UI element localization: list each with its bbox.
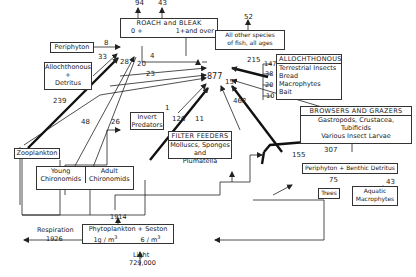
- phyto-conc-2: 6 / m3: [128, 233, 173, 244]
- alloch-value-bait: 10: [266, 92, 274, 100]
- flow-label-26: 26: [111, 118, 120, 126]
- invert-predators-node: Invert Predators: [130, 112, 164, 130]
- flow-label-28: 28: [120, 58, 129, 66]
- zooplankton-label: Zooplankton: [15, 149, 59, 157]
- alloch-detritus-line2: +: [45, 71, 91, 79]
- other-species-line2: of fish, all ages: [216, 39, 284, 47]
- young-chironomids: Young Chironomids: [37, 167, 85, 183]
- respiration-value: 1926: [46, 235, 63, 243]
- allochthonous-detritus-node: Allochthonous + Detritus: [44, 62, 92, 90]
- alloch-value-macrophytes: 20: [265, 81, 273, 89]
- roach-age-young: 0 +: [121, 27, 176, 35]
- trees-node: Trees: [318, 188, 340, 199]
- phyto-conc-2-exp: 3: [157, 234, 160, 240]
- invert-predators-line2: Predators: [131, 121, 163, 129]
- alloch-detritus-line3: Detritus: [45, 79, 91, 87]
- browsers-grazers-line2: Tubificids: [301, 124, 411, 132]
- alloch-detritus-line1: Allochthonous: [45, 63, 91, 71]
- phyto-conc-1-value: 1g / m: [93, 236, 114, 244]
- periphyton-benthic-node: Periphyton + Benthic Detritus: [302, 163, 398, 174]
- light-value: 729,000: [129, 259, 156, 267]
- flow-label-11: 11: [195, 115, 204, 123]
- roach-bleak-node: ROACH and BLEAK 0 + 1+and over: [120, 18, 218, 38]
- flow-label-43-top: 43: [158, 0, 167, 7]
- browsers-grazers-line3: Various Insect Larvae: [301, 132, 411, 140]
- periphyton-node: Periphyton: [50, 42, 94, 53]
- alloch-item-bait: Bait: [277, 88, 341, 96]
- flow-label-33: 33: [98, 53, 107, 61]
- alloch-value-terrestrial: 147: [264, 60, 276, 68]
- flow-label-15: 15: [225, 78, 234, 86]
- flow-label-126: 126: [172, 115, 185, 123]
- flow-label-307: 307: [324, 146, 337, 154]
- other-species-line1: All other species: [216, 31, 284, 39]
- periphyton-label: Periphyton: [51, 43, 93, 51]
- flow-label-94: 94: [135, 0, 144, 7]
- flow-label-48: 48: [81, 118, 90, 126]
- alloch-item-bread: Bread: [277, 72, 341, 80]
- alloch-item-terrestrial: Terrestrial Insects: [277, 64, 341, 72]
- phyto-conc-1-exp: 3: [114, 234, 117, 240]
- zooplankton-node: Zooplankton: [14, 148, 60, 159]
- aquatic-macrophytes-node: Aquatic Macrophytes: [352, 186, 398, 206]
- flow-label-1914: 1914: [110, 213, 127, 221]
- adult-chironomids-line1: Adult: [86, 167, 134, 175]
- phyto-conc-1: 1g / m3: [83, 233, 128, 244]
- roach-age-old: 1+and over: [176, 27, 217, 35]
- filter-feeders-line2: Plumatella: [169, 157, 231, 165]
- flow-label-43-macro: 43: [386, 178, 395, 186]
- alloch-value-bread: 38: [265, 70, 273, 78]
- flow-label-23: 23: [146, 70, 155, 78]
- flow-label-239: 239: [53, 97, 66, 105]
- browsers-grazers-title: BROWSERS AND GRAZERS: [301, 107, 411, 116]
- respiration-label: Respiration: [37, 226, 74, 234]
- periphyton-benthic-label: Periphyton + Benthic Detritus: [303, 164, 397, 172]
- flow-label-462: 462: [233, 97, 246, 105]
- flow-label-75: 75: [329, 176, 338, 184]
- adult-chironomids-line2: Chironomids: [86, 175, 134, 183]
- young-chironomids-line2: Chironomids: [37, 175, 85, 183]
- total-flow-value: 877: [207, 73, 222, 81]
- phyto-conc-2-value: 6 / m: [141, 236, 158, 244]
- flow-label-155: 155: [292, 151, 305, 159]
- flow-label-52: 52: [244, 13, 253, 21]
- allochthonous-node: ALLOCHTHONOUS Terrestrial Insects Bread …: [276, 54, 342, 100]
- filter-feeders-node: FILTER FEEDERS Molluscs, Sponges and Plu…: [168, 131, 232, 159]
- aquatic-macrophytes-line1: Aquatic: [353, 187, 397, 195]
- chironomids-node: Young Chironomids Adult Chironomids: [36, 166, 134, 190]
- filter-feeders-title: FILTER FEEDERS: [169, 132, 231, 141]
- trees-label: Trees: [319, 189, 339, 197]
- phytoplankton-node: Phytoplankton + Seston 1g / m3 6 / m3: [82, 224, 174, 244]
- adult-chironomids: Adult Chironomids: [85, 167, 134, 183]
- allochthonous-title: ALLOCHTHONOUS: [277, 55, 341, 64]
- aquatic-macrophytes-line2: Macrophytes: [353, 195, 397, 203]
- flow-label-215: 215: [247, 56, 260, 64]
- alloch-item-macrophytes: Macrophytes: [277, 80, 341, 88]
- flow-label-1: 1: [165, 104, 169, 112]
- phytoplankton-title: Phytoplankton + Seston: [83, 225, 173, 233]
- browsers-grazers-node: BROWSERS AND GRAZERS Gastropods, Crustac…: [300, 106, 412, 144]
- young-chironomids-line1: Young: [37, 167, 85, 175]
- flow-label-4: 4: [150, 52, 154, 60]
- light-label: Light: [133, 251, 149, 259]
- other-species-node: All other species of fish, all ages: [215, 30, 285, 50]
- flow-label-20: 20: [137, 60, 146, 68]
- filter-feeders-line1: Molluscs, Sponges and: [169, 141, 231, 157]
- browsers-grazers-line1: Gastropods, Crustacea,: [301, 116, 411, 124]
- roach-bleak-title: ROACH and BLEAK: [121, 19, 217, 27]
- flow-label-8: 8: [104, 39, 108, 47]
- invert-predators-line1: Invert: [131, 113, 163, 121]
